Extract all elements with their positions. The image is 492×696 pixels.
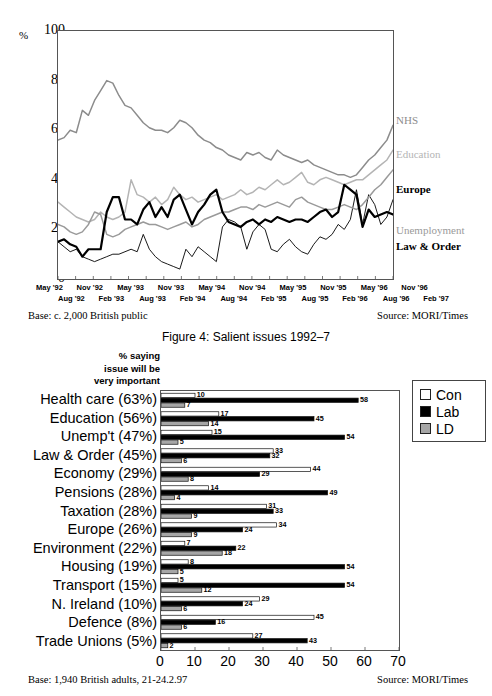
line-chart-x-tick-label: May '96	[361, 283, 402, 292]
legend-swatch-icon	[420, 406, 431, 417]
bar-value-label: 12	[204, 585, 212, 594]
line-legend-item-education: Education	[396, 148, 441, 160]
bar-ld	[161, 440, 178, 444]
bar-chart-header-line: % saying	[55, 350, 160, 363]
line-legend-item-unemployment: Unemployment	[396, 224, 464, 236]
line-chart-legend: NHSEducationEuropeUnemploymentLaw & Orde…	[396, 30, 492, 280]
line-chart-y-axis: 100806040200	[0, 0, 65, 300]
bar-con	[161, 467, 311, 471]
bar-con	[161, 430, 212, 434]
line-chart-x-tick-label: Feb '97	[423, 294, 464, 303]
bar-legend-label: Lab	[436, 405, 459, 419]
line-chart-x-tick-label: May '95	[280, 283, 321, 292]
line-chart-base-note: Base: c. 2,000 British public	[28, 310, 148, 321]
bar-value-label: 2	[170, 641, 174, 650]
bar-chart-svg: 1058717451415545333264429814494313393424…	[161, 391, 399, 650]
line-chart-plot-area	[57, 30, 394, 280]
bar-ld	[161, 477, 188, 481]
bar-chart-header-label: % sayingissue will bevery important	[55, 350, 160, 388]
bar-lab	[161, 620, 215, 624]
bar-value-label: 24	[244, 525, 252, 534]
bar-con	[161, 412, 219, 416]
bar-con	[161, 560, 188, 564]
bar-chart-category-labels: Health care (63%)Education (56%)Unemp't …	[0, 390, 160, 650]
bar-value-label: 44	[312, 464, 320, 473]
line-chart-x-tick-label: Nov '95	[320, 283, 361, 292]
line-legend-item-law-order: Law & Order	[396, 240, 461, 252]
line-chart-x-tick-label: Aug '96	[383, 294, 424, 303]
bar-chart-category-label: Unemp't (47%)	[0, 427, 160, 446]
bar-lab	[161, 509, 273, 513]
bar-ld	[161, 403, 185, 407]
bar-con	[161, 449, 273, 453]
bar-chart-x-tick-label: 50	[317, 653, 343, 669]
line-chart-x-tick-label: Feb '93	[99, 294, 140, 303]
bar-value-label: 54	[346, 562, 354, 571]
bar-chart-category-label: Europe (26%)	[0, 520, 160, 539]
bar-ld	[161, 625, 181, 629]
line-legend-item-europe: Europe	[396, 183, 431, 195]
bar-value-label: 16	[217, 617, 225, 626]
bar-lab	[161, 528, 243, 532]
bar-value-label: 49	[329, 488, 337, 497]
bar-lab	[161, 472, 260, 476]
bar-ld	[161, 569, 178, 573]
bar-chart-category-label: Trade Unions (5%)	[0, 632, 160, 651]
bar-value-label: 5	[180, 437, 184, 446]
line-chart-x-tick-label: Aug '94	[220, 294, 261, 303]
line-chart-x-axis-row-top: May '92Nov '92May '93Nov '93May '94Nov '…	[36, 283, 442, 292]
bar-value-label: 8	[190, 474, 194, 483]
bar-ld	[161, 588, 202, 592]
bar-ld	[161, 532, 192, 536]
line-chart-x-tick-label: Nov '94	[239, 283, 280, 292]
bar-chart-category-label: Pensions (28%)	[0, 483, 160, 502]
line-chart-footnotes: Base: c. 2,000 British public Source: MO…	[28, 310, 468, 326]
bar-value-label: 6	[183, 622, 187, 631]
bar-value-label: 32	[272, 451, 280, 460]
bar-ld	[161, 514, 192, 518]
line-chart-x-tick-label: Aug '95	[302, 294, 343, 303]
bar-ld	[161, 421, 209, 425]
bar-value-label: 58	[360, 395, 368, 404]
bar-chart-header-line: very important	[55, 375, 160, 388]
line-series-europe	[58, 190, 393, 269]
bar-chart-x-tick-label: 30	[249, 653, 275, 669]
bar-value-label: 22	[238, 543, 246, 552]
line-chart: % 100806040200 NHSEducationEuropeUnemplo…	[0, 0, 492, 332]
line-series-law-order	[58, 185, 393, 257]
bar-value-label: 4	[176, 493, 180, 502]
bar-chart-x-tick-label: 70	[385, 653, 411, 669]
bar-con	[161, 634, 253, 638]
bar-value-label: 9	[193, 511, 197, 520]
bar-lab	[161, 639, 307, 643]
line-chart-x-axis-row-bottom: Aug '92Feb '93Aug '93Feb '94Aug '94Feb '…	[58, 294, 464, 303]
line-chart-x-tick-label: May '93	[117, 283, 158, 292]
bar-legend-item-con: Con	[420, 386, 485, 403]
bar-chart-category-label: Health care (63%)	[0, 390, 160, 409]
bar-chart: % sayingissue will bevery important Heal…	[0, 348, 492, 696]
figure-caption: Figure 4: Salient issues 1992–7	[0, 330, 492, 344]
bar-value-label: 18	[224, 548, 232, 557]
legend-swatch-icon	[420, 423, 431, 434]
bar-legend-label: LD	[436, 422, 454, 436]
bar-value-label: 43	[309, 636, 317, 645]
bar-ld	[161, 551, 222, 555]
bar-chart-category-label: Taxation (28%)	[0, 502, 160, 521]
bar-con	[161, 615, 314, 619]
line-chart-x-axis: May '92Nov '92May '93Nov '93May '94Nov '…	[30, 283, 470, 309]
bar-chart-header-line: issue will be	[55, 363, 160, 376]
bar-con	[161, 541, 185, 545]
bar-lab	[161, 565, 345, 569]
bar-value-label: 24	[244, 599, 252, 608]
line-chart-x-tick-label: Nov '93	[158, 283, 199, 292]
bar-chart-x-axis: 010203040506070	[150, 653, 412, 673]
bar-ld	[161, 606, 181, 610]
bar-chart-category-label: Economy (29%)	[0, 464, 160, 483]
bar-lab	[161, 417, 314, 421]
bar-chart-category-label: N. Ireland (10%)	[0, 595, 160, 614]
bar-chart-category-label: Law & Order (45%)	[0, 446, 160, 465]
bar-value-label: 54	[346, 432, 354, 441]
bar-lab	[161, 602, 243, 606]
line-chart-svg	[58, 31, 393, 279]
line-legend-item-nhs: NHS	[396, 114, 418, 126]
